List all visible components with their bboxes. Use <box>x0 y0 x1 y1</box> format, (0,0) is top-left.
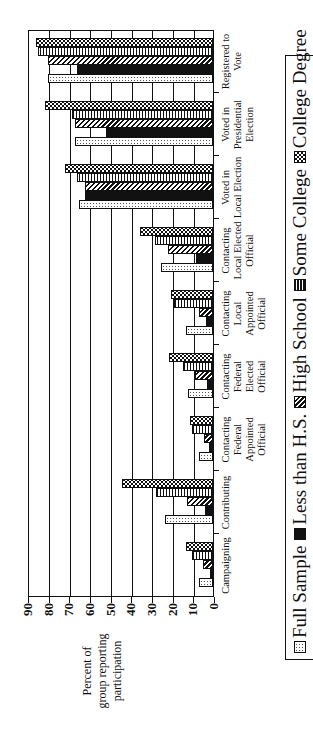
bar-some-college <box>72 110 213 119</box>
bar-less-than-h-s <box>206 317 213 326</box>
y-tick-label: 30 <box>144 603 160 631</box>
y-tick <box>111 597 112 603</box>
bar-less-than-h-s <box>77 65 213 74</box>
category-label-line: Appointed <box>244 408 256 472</box>
bar-college-degree <box>65 164 213 173</box>
category-label-line: Voted in <box>220 93 232 157</box>
bar-some-college <box>156 488 213 497</box>
category-label: Registered toVote <box>220 30 244 94</box>
x-tick <box>214 155 219 156</box>
y-axis-title-line: Percent of <box>80 621 95 721</box>
legend-item: High School <box>289 297 311 408</box>
y-tick <box>90 597 91 603</box>
category-label-line: Contacting <box>220 282 232 346</box>
bar-full-sample <box>165 515 213 524</box>
category-label-line: Appointed <box>244 282 256 346</box>
y-axis-title-line: group reporting <box>95 621 110 721</box>
bar-less-than-h-s <box>207 380 213 389</box>
y-tick-label: 70 <box>61 603 77 631</box>
category-label-line: Official <box>256 408 268 472</box>
bar-full-sample <box>48 74 213 83</box>
legend: Full SampleLess than H.S.High SchoolSome… <box>285 55 313 660</box>
category-label-line: Registered to <box>220 30 232 94</box>
category-label-line: Contacting <box>220 408 232 472</box>
legend-label: Less than H.S. <box>289 414 311 525</box>
bar-less-than-h-s <box>210 569 213 578</box>
y-tick-label: 80 <box>41 603 57 631</box>
category-label: Voted inPresidentialElection <box>220 93 256 157</box>
bar-full-sample <box>199 452 213 461</box>
category-label-line: Federal <box>232 408 244 472</box>
bar-some-college <box>155 236 213 245</box>
bar-less-than-h-s <box>85 191 213 200</box>
x-tick <box>214 92 219 93</box>
bar-full-sample <box>161 263 213 272</box>
bar-group <box>29 29 213 92</box>
legend-swatch-icon <box>294 528 306 540</box>
y-tick <box>131 597 132 603</box>
category-label: ContactingFederalElectedOfficial <box>220 345 268 409</box>
bar-college-degree <box>169 353 213 362</box>
bar-college-degree <box>122 479 213 488</box>
bar-high-school <box>75 119 213 128</box>
bar-college-degree <box>45 101 213 110</box>
category-label: ContactingFederalAppointedOfficial <box>220 408 268 472</box>
category-label-line: Presidential <box>232 93 244 157</box>
y-tick <box>69 597 70 603</box>
bar-group <box>29 533 213 596</box>
y-tick <box>193 597 194 603</box>
bar-college-degree <box>36 38 213 47</box>
category-label-line: Official <box>256 345 268 409</box>
bar-high-school <box>195 371 213 380</box>
y-tick-label: 50 <box>103 603 119 631</box>
category-label-line: Elected <box>244 345 256 409</box>
bar-full-sample <box>186 326 213 335</box>
bar-high-school <box>203 560 213 569</box>
y-tick <box>152 597 153 603</box>
category-label-line: Vote <box>232 30 244 94</box>
category-label-line: Official <box>244 219 256 283</box>
y-axis-title: Percent ofgroup reportingparticipation <box>80 621 125 721</box>
bar-some-college <box>77 173 213 182</box>
bar-college-degree <box>186 542 213 551</box>
legend-swatch-icon <box>294 279 306 291</box>
y-tick <box>28 597 29 603</box>
category-label-line: Local Election <box>232 156 244 220</box>
bar-group <box>29 344 213 407</box>
bar-some-college <box>174 299 213 308</box>
category-label-line: Official <box>256 282 268 346</box>
bar-high-school <box>85 182 213 191</box>
x-tick <box>214 281 219 282</box>
bar-some-college <box>192 425 213 434</box>
bar-some-college <box>38 47 213 56</box>
bar-high-school <box>48 56 213 65</box>
category-label: Voted inLocal Election <box>220 156 244 220</box>
legend-item: Less than H.S. <box>289 414 311 540</box>
bar-less-than-h-s <box>209 443 213 452</box>
bar-group <box>29 92 213 155</box>
legend-item: Full Sample <box>289 546 311 653</box>
legend-swatch-icon <box>294 641 306 653</box>
legend-label: Full Sample <box>289 546 311 638</box>
bar-less-than-h-s <box>106 128 213 137</box>
category-label-line: Contributing <box>220 471 232 535</box>
chart-stage: Percent ofgroup reportingparticipation 0… <box>0 0 313 743</box>
y-axis-title-line: participation <box>110 621 125 721</box>
category-label-line: Federal <box>232 345 244 409</box>
bar-full-sample <box>188 389 213 398</box>
bar-full-sample <box>75 137 213 146</box>
bar-high-school <box>168 245 213 254</box>
y-tick-label: 40 <box>123 603 139 631</box>
category-label-line: Election <box>244 93 256 157</box>
bar-group <box>29 155 213 218</box>
x-tick <box>214 533 219 534</box>
y-tick-label: 0 <box>206 603 222 631</box>
category-label: ContactingLocal ElectedOfficial <box>220 219 256 283</box>
y-tick-label: 10 <box>185 603 201 631</box>
bar-less-than-h-s <box>205 506 213 515</box>
bar-group <box>29 470 213 533</box>
y-tick <box>49 597 50 603</box>
bar-college-degree <box>190 416 213 425</box>
plot-area <box>28 30 214 597</box>
bar-some-college <box>192 551 213 560</box>
